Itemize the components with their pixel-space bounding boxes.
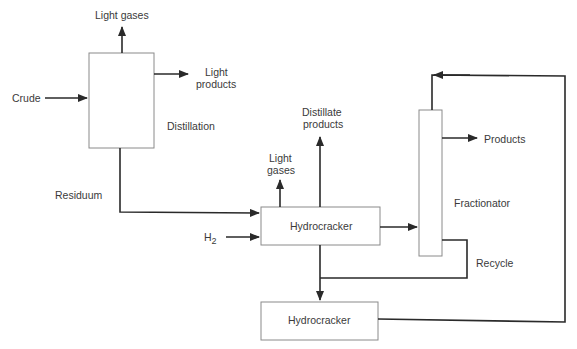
residuum-arrow	[120, 148, 259, 213]
distillate-label-2: products	[303, 118, 343, 130]
residuum-label: Residuum	[55, 189, 103, 201]
products-label: Products	[484, 133, 525, 145]
hydrocracker-2-label: Hydrocracker	[288, 314, 351, 326]
process-flow-diagram: Crude Light gases Light products Distill…	[0, 0, 577, 349]
light-products-label-1: Light	[205, 66, 228, 78]
light-gases-hc-label-2: gases	[267, 164, 295, 176]
light-products-label-2: products	[196, 78, 236, 90]
fractionator-unit	[419, 110, 442, 256]
distillation-unit	[89, 53, 154, 148]
crude-label: Crude	[12, 92, 41, 104]
light-gases-hc-label-1: Light	[269, 152, 292, 164]
distillation-label: Distillation	[167, 120, 215, 132]
fractionator-label: Fractionator	[454, 197, 511, 209]
distillate-label-1: Distillate	[302, 106, 342, 118]
hydrocracker-1-label: Hydrocracker	[290, 220, 353, 232]
recycle-label: Recycle	[476, 257, 514, 269]
h2-label: H2	[204, 231, 217, 246]
recycle-line	[320, 240, 467, 278]
light-gases-top-label: Light gases	[95, 9, 149, 21]
